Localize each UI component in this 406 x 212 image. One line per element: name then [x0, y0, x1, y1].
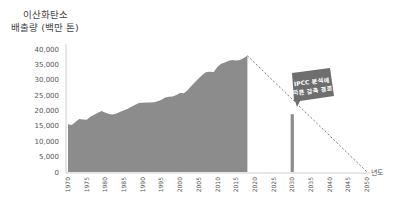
x-tick-label: 2000: [176, 177, 183, 192]
x-tick-label: 2030: [288, 177, 295, 192]
x-tick-label: 2045: [344, 177, 351, 192]
x-tick-label: 2005: [195, 177, 202, 192]
x-tick-label: 1990: [139, 177, 146, 192]
y-tick-label: 30,000: [35, 76, 60, 84]
co2-emissions-chart: 이산화탄소 배출량 (백만 톤) 40,00035,00030,00025,00…: [0, 0, 406, 212]
x-tick-label: 2015: [232, 177, 239, 192]
x-tick-label: 2040: [326, 177, 333, 192]
chart-title-line-1: 이산화탄소: [23, 9, 68, 20]
x-tick-label: 2025: [270, 177, 277, 192]
x-tick-label: 1980: [101, 177, 108, 192]
bar-2030: [291, 114, 294, 172]
y-tick-label: 15,000: [35, 122, 60, 130]
chart-title-line-2: 배출량 (백만 톤): [11, 22, 78, 33]
y-tick-label: 0: [55, 169, 59, 177]
x-tick-label: 1970: [64, 177, 71, 192]
x-tick-label: 2010: [214, 177, 221, 192]
x-axis-ticks: 1970197519801985199019952000200520102015…: [64, 177, 370, 192]
x-tick-label: 2020: [251, 177, 258, 192]
y-tick-label: 40,000: [35, 46, 60, 54]
x-tick-label: 1975: [83, 177, 90, 192]
x-axis-label: 년도: [371, 168, 384, 177]
y-tick-label: 20,000: [35, 107, 60, 115]
x-tick-label: 2035: [307, 177, 314, 192]
y-tick-label: 10,000: [35, 138, 60, 146]
emissions-area-path: [68, 56, 247, 172]
historical-emissions-area: [68, 56, 247, 172]
y-tick-label: 5,000: [39, 153, 59, 161]
y-tick-label: 35,000: [35, 61, 60, 69]
x-tick-label: 1985: [120, 177, 127, 192]
x-tick-label: 2050: [363, 177, 370, 192]
ipcc-callout: IPCC 분석에 따른 감축 경로: [292, 68, 334, 107]
y-axis-ticks: 40,00035,00030,00025,00020,00015,00010,0…: [35, 46, 60, 177]
x-tick-label: 1995: [157, 177, 164, 192]
target-2030-bar: [291, 114, 294, 172]
y-tick-label: 25,000: [35, 92, 60, 100]
